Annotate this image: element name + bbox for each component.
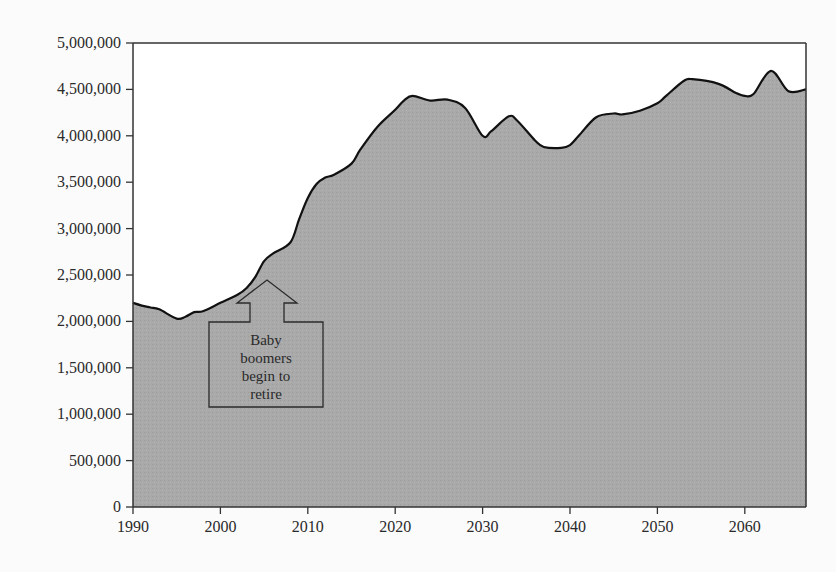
x-tick-label: 2040 [554, 518, 586, 535]
y-tick-label: 3,000,000 [57, 220, 121, 237]
x-axis: 19902000201020202030204020502060 [117, 507, 761, 535]
y-tick-label: 0 [113, 498, 121, 515]
x-tick-label: 2020 [379, 518, 411, 535]
x-tick-label: 2060 [729, 518, 761, 535]
x-tick-label: 2010 [292, 518, 324, 535]
x-tick-label: 2050 [641, 518, 673, 535]
y-tick-label: 1,000,000 [57, 405, 121, 422]
y-tick-label: 5,000,000 [57, 34, 121, 51]
y-tick-label: 4,000,000 [57, 127, 121, 144]
area-chart: 0500,0001,000,0001,500,0002,000,0002,500… [0, 0, 836, 572]
y-tick-label: 2,000,000 [57, 312, 121, 329]
x-tick-label: 2000 [204, 518, 236, 535]
y-tick-label: 1,500,000 [57, 359, 121, 376]
x-tick-label: 2030 [467, 518, 499, 535]
x-tick-label: 1990 [117, 518, 149, 535]
y-tick-label: 4,500,000 [57, 80, 121, 97]
y-tick-label: 500,000 [69, 452, 121, 469]
y-axis: 0500,0001,000,0001,500,0002,000,0002,500… [57, 34, 133, 515]
y-tick-label: 2,500,000 [57, 266, 121, 283]
y-tick-label: 3,500,000 [57, 173, 121, 190]
